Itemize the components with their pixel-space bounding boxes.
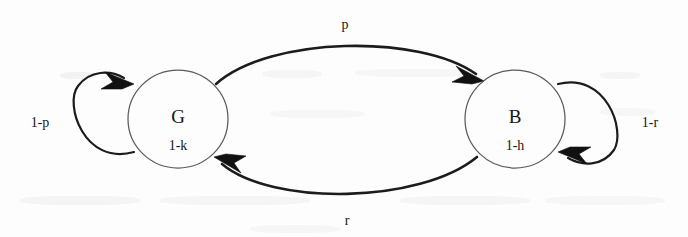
node-g-sublabel: 1-k	[169, 138, 188, 153]
node-g-label: G	[171, 106, 185, 127]
edge-b-self-loop	[558, 82, 617, 164]
node-b[interactable]: B 1-h	[465, 70, 565, 168]
diagram-canvas: G 1-k B 1-h p r 1-p 1-r	[0, 0, 688, 237]
edge-label-p: p	[342, 17, 349, 32]
edge-label-one-minus-r: 1-r	[642, 115, 659, 130]
edge-label-r: r	[345, 213, 350, 228]
edge-g-to-b-path	[216, 46, 476, 84]
edge-b-to-g-path	[222, 157, 477, 194]
diagram-graphics: G 1-k B 1-h p r 1-p 1-r	[0, 0, 688, 237]
node-b-sublabel: 1-h	[506, 138, 525, 153]
edge-g-self-loop	[74, 72, 134, 154]
edge-label-one-minus-p: 1-p	[31, 115, 50, 130]
node-b-label: B	[509, 106, 522, 127]
edge-b-to-g	[214, 154, 477, 194]
edge-g-to-b	[216, 46, 484, 84]
node-g[interactable]: G 1-k	[128, 70, 228, 168]
